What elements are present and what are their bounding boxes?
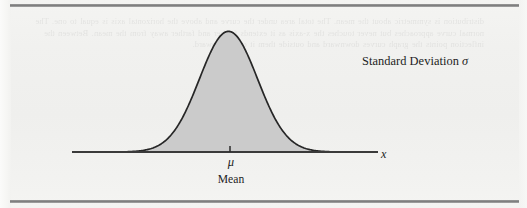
- standard-deviation-text: Standard Deviation: [362, 54, 459, 68]
- normal-distribution-chart: [0, 0, 527, 208]
- sigma-symbol: σ: [462, 54, 468, 68]
- curve-fill-area: [124, 31, 333, 152]
- standard-deviation-label: Standard Deviation σ: [362, 54, 468, 69]
- figure-panel: distribution is symmetric about the mean…: [0, 0, 527, 208]
- mean-label: Mean: [205, 173, 257, 186]
- mu-label: μ: [225, 155, 237, 170]
- x-axis-label: x: [381, 147, 386, 162]
